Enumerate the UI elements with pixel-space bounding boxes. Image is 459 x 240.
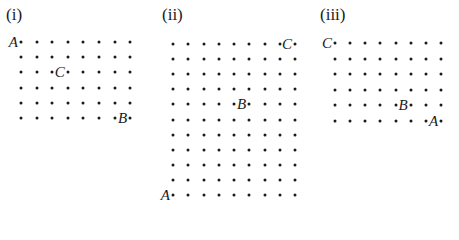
grid-dot (98, 86, 101, 89)
grid-dot (263, 118, 266, 121)
grid-dot (409, 88, 412, 91)
grid-dot (233, 118, 236, 121)
grid-dot (394, 57, 397, 60)
grid-dot (294, 194, 297, 197)
grid-dot (349, 57, 352, 60)
grid-dot (424, 88, 427, 91)
grid-dot (278, 73, 281, 76)
grid-dot (35, 56, 38, 59)
grid-dot (409, 73, 412, 76)
grid-dot (379, 104, 382, 107)
grid-dot (82, 41, 85, 44)
grid-dot (202, 58, 205, 61)
grid-dot (294, 163, 297, 166)
grid-dot (202, 194, 205, 197)
point-label-a: A (429, 114, 441, 129)
grid-dot (51, 86, 54, 89)
grid-dot (278, 178, 281, 181)
grid-dot (172, 163, 175, 166)
grid-dot (349, 120, 352, 123)
grid-dot (394, 88, 397, 91)
grid-dot (379, 73, 382, 76)
grid-dot (409, 42, 412, 45)
grid-dot (233, 163, 236, 166)
grid-dot (349, 104, 352, 107)
grid-dot (82, 56, 85, 59)
grid-dot (172, 103, 175, 106)
grid-dot (233, 103, 236, 106)
point-label-c: C (55, 65, 68, 80)
grid-dot (364, 57, 367, 60)
grid-dot (113, 101, 116, 104)
grid-dot (82, 86, 85, 89)
grid-dot (187, 133, 190, 136)
grid-dot (202, 73, 205, 76)
grid-dot (440, 57, 443, 60)
grid-dot (294, 73, 297, 76)
grid-dot (294, 88, 297, 91)
grid-dot (349, 73, 352, 76)
point-label-a: A (9, 35, 21, 50)
grid-dot (263, 103, 266, 106)
grid-dot (248, 148, 251, 151)
grid-dot (334, 57, 337, 60)
grid-dot (248, 58, 251, 61)
grid-dot (187, 88, 190, 91)
grid-dot (172, 133, 175, 136)
grid-dot (364, 120, 367, 123)
grid-dot (364, 88, 367, 91)
grid-dot (217, 133, 220, 136)
point-label-a: A (161, 188, 173, 203)
grid-dot (278, 148, 281, 151)
grid-dot (263, 194, 266, 197)
grid-dot (440, 42, 443, 45)
grid-dot (202, 148, 205, 151)
grid-dot (187, 73, 190, 76)
grid-dot (66, 56, 69, 59)
grid-dot (440, 73, 443, 76)
grid-dot (278, 103, 281, 106)
grid-dot (98, 101, 101, 104)
point-label-b: B (237, 97, 249, 112)
grid-dot (129, 86, 132, 89)
grid-dot (294, 133, 297, 136)
grid-dot (233, 178, 236, 181)
grid-dot (217, 118, 220, 121)
grid-dot (294, 118, 297, 121)
grid-dot (233, 88, 236, 91)
grid-dot (364, 104, 367, 107)
grid-dot (248, 133, 251, 136)
grid-dot (217, 73, 220, 76)
grid-dot (187, 58, 190, 61)
grid-dot (66, 86, 69, 89)
grid-dot (113, 71, 116, 74)
grid-dot (233, 58, 236, 61)
grid-dot (98, 56, 101, 59)
point-label-c: C (322, 36, 335, 51)
grid-dot (129, 41, 132, 44)
grid-dot (248, 88, 251, 91)
grid-dot (278, 163, 281, 166)
grid-dot (364, 42, 367, 45)
grid-dot (35, 101, 38, 104)
grid-dot (294, 148, 297, 151)
grid-dot (278, 58, 281, 61)
point-label-c: C (282, 37, 295, 52)
grid-dot (233, 43, 236, 46)
grid-dot (98, 41, 101, 44)
grid-dot (263, 43, 266, 46)
grid-dot (334, 73, 337, 76)
point-label-b: B (399, 98, 411, 113)
grid-dot (187, 178, 190, 181)
grid-dot (129, 56, 132, 59)
grid-dot (263, 163, 266, 166)
grid-dot (263, 88, 266, 91)
grid-dot (35, 71, 38, 74)
grid-dot (202, 43, 205, 46)
grid-dot (424, 57, 427, 60)
grid-dot (409, 120, 412, 123)
grid-dot (35, 41, 38, 44)
grid-dot (217, 58, 220, 61)
grid-dot (202, 178, 205, 181)
grid-dot (217, 88, 220, 91)
